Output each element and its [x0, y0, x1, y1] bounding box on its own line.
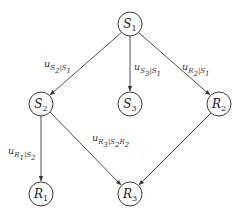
node-s2: S2: [29, 93, 53, 117]
edge-label-s3-given-s1: uS3|S1: [134, 61, 161, 74]
node-s2-sub: 2: [43, 104, 48, 113]
node-s2-var: S: [34, 97, 42, 111]
edge-r2-r3: [139, 113, 211, 185]
node-r2-var: R: [212, 97, 221, 111]
node-s1: S1: [118, 13, 142, 37]
node-r3-var: R: [123, 187, 132, 201]
node-s3: S3: [118, 93, 142, 117]
node-s1-var: S: [123, 17, 131, 31]
node-s3-sub: 3: [132, 104, 137, 113]
node-r1-sub: 1: [43, 194, 48, 203]
node-r3-sub: 3: [132, 194, 137, 203]
edge-s2-r3: [50, 112, 121, 185]
node-r1: R1: [29, 183, 53, 207]
edge-label-r3-given-s2r2: uR3|S2R2: [92, 132, 129, 145]
node-r2: R2: [207, 93, 231, 117]
node-r2-sub: 2: [221, 104, 226, 113]
node-s3-var: S: [123, 97, 131, 111]
node-r3: R3: [118, 183, 142, 207]
edge-label-s2-given-s1: uS2|S1: [44, 58, 71, 71]
edge-label-r2-given-s1: uR2|S1: [182, 61, 210, 74]
edge-label-r1-given-s2: uR1|S2: [8, 145, 36, 158]
node-r1-var: R: [34, 187, 43, 201]
node-s1-sub: 1: [132, 24, 137, 33]
